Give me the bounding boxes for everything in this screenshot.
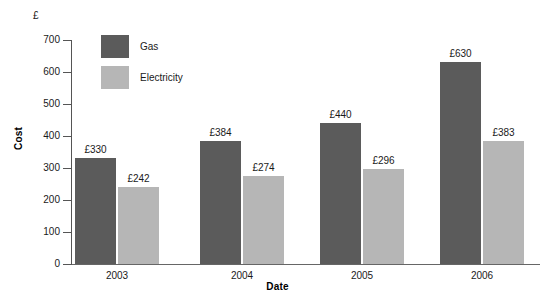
plot-area: £330£242£384£274£440£296£630£383 [0,0,555,265]
bar-value-label: £330 [69,144,122,155]
bar-chart: £ Cost Date 0100200300400500600700 £330£… [0,0,555,305]
legend-swatch-electricity-icon [101,66,129,89]
bar-value-label: £440 [314,109,367,120]
x-axis-title: Date [0,281,555,292]
bar-value-label: £274 [237,162,290,173]
legend-label-electricity: Electricity [140,72,183,83]
bar-value-label: £296 [357,155,410,166]
bar-electricity-2006[interactable] [483,141,524,264]
bar-value-label: £242 [112,173,165,184]
x-axis-category-label: 2003 [65,270,169,281]
bar-electricity-2004[interactable] [243,176,284,264]
x-axis-category-label: 2004 [190,270,294,281]
bar-value-label: £630 [434,48,487,59]
bar-gas-2005[interactable] [320,123,361,264]
bar-electricity-2003[interactable] [118,187,159,264]
bar-gas-2006[interactable] [440,62,481,264]
x-axis-category-label: 2005 [310,270,414,281]
bar-value-label: £383 [477,127,530,138]
x-axis-category-label: 2006 [430,270,534,281]
legend-label-gas: Gas [140,41,158,52]
bar-gas-2003[interactable] [75,158,116,264]
bar-electricity-2005[interactable] [363,169,404,264]
bar-value-label: £384 [194,127,247,138]
bar-gas-2004[interactable] [200,141,241,264]
legend-swatch-gas-icon [101,35,129,58]
